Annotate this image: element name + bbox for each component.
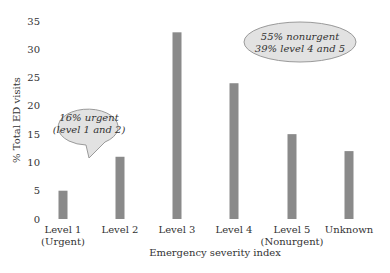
x-tick-label: (Urgent) [41,236,85,247]
x-tick-label: Level 2 [102,224,139,235]
y-tick-label: 10 [27,157,40,168]
annotation-ellipse-nonurgent [244,22,356,62]
x-tick-label: Level 3 [159,224,196,235]
bar-1 [59,191,68,219]
y-tick-label: 0 [34,214,40,225]
y-axis-label: % Total ED visits [11,77,22,163]
annotation-text-urgent: 16% urgent [59,112,119,123]
y-tick-label: 25 [27,72,40,83]
bar-chart: 05101520253035% Total ED visitsLevel 1(U… [0,0,390,273]
y-tick-label: 30 [27,44,40,55]
bar-6 [345,151,354,219]
bar-4 [230,83,239,219]
bar-3 [173,32,182,219]
x-tick-label: (Nonurgent) [260,236,323,247]
x-tick-label: Level 4 [216,224,253,235]
x-tick-label: Level 5 [274,224,311,235]
annotation-text-nonurgent: 39% level 4 and 5 [255,43,345,54]
x-axis-label: Emergency severity index [149,247,281,258]
annotation-text-nonurgent: 55% nonurgent [261,31,340,42]
y-tick-label: 20 [27,100,40,111]
x-tick-label: Level 1 [45,224,82,235]
x-tick-label: Unknown [325,224,374,235]
bar-2 [116,157,125,219]
y-tick-label: 35 [27,16,40,27]
annotation-text-urgent: (level 1 and 2) [53,124,126,135]
y-tick-label: 5 [34,185,40,196]
y-tick-label: 15 [27,129,40,140]
bar-5 [288,134,297,219]
